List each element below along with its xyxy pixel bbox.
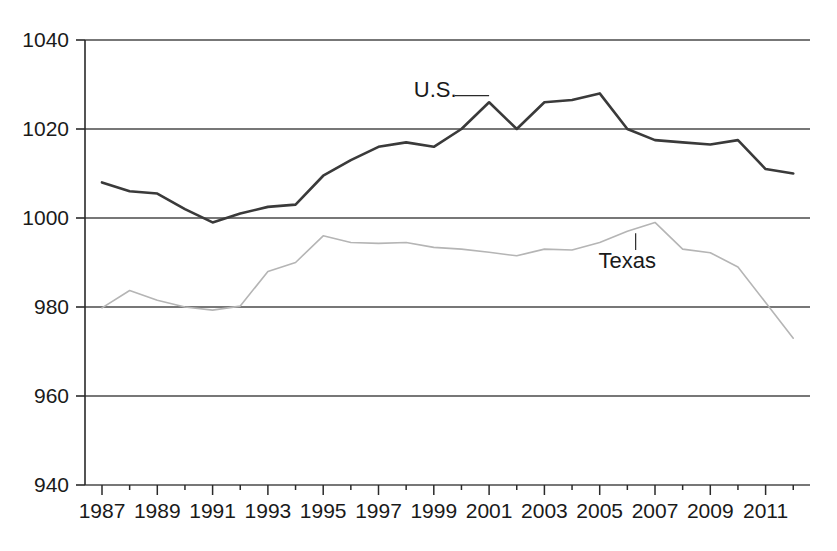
x-tick-label-1995: 1995: [300, 499, 347, 522]
x-tick-label-1997: 1997: [355, 499, 402, 522]
x-tick-label-2001: 2001: [466, 499, 513, 522]
series-label-us: U.S.: [414, 77, 457, 102]
y-tick-label-1020: 1020: [22, 117, 69, 140]
y-tick-label-1000: 1000: [22, 206, 69, 229]
gridlines: [85, 40, 810, 485]
x-axis: [102, 485, 793, 495]
x-tick-label-2003: 2003: [521, 499, 568, 522]
y-tick-label-940: 940: [34, 473, 69, 496]
x-tick-label-1989: 1989: [134, 499, 181, 522]
x-tick-label-2009: 2009: [687, 499, 734, 522]
data-series: [102, 93, 793, 338]
x-tick-label-1993: 1993: [245, 499, 292, 522]
y-tick-label-960: 960: [34, 384, 69, 407]
x-tick-label-1991: 1991: [189, 499, 236, 522]
y-tick-labels: 940960980100010201040: [22, 28, 69, 496]
line-chart: 940960980100010201040 198719891991199319…: [0, 0, 837, 551]
y-tick-label-1040: 1040: [22, 28, 69, 51]
series-line-texas: [102, 222, 793, 338]
series-annotations: U.S.Texas: [414, 77, 656, 273]
x-tick-label-2011: 2011: [743, 499, 788, 522]
x-tick-labels: 1987198919911993199519971999200120032005…: [79, 499, 789, 522]
x-tick-label-1999: 1999: [410, 499, 457, 522]
series-label-texas: Texas: [599, 248, 656, 273]
y-tick-label-980: 980: [34, 295, 69, 318]
x-tick-label-1987: 1987: [79, 499, 126, 522]
series-line-us: [102, 93, 793, 222]
x-tick-label-2005: 2005: [576, 499, 623, 522]
chart-container: 940960980100010201040 198719891991199319…: [0, 0, 837, 551]
y-axis: [76, 40, 85, 485]
x-tick-label-2007: 2007: [632, 499, 679, 522]
